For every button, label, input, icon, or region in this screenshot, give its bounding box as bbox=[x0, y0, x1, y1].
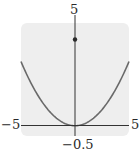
y-max-label: 5 bbox=[70, 3, 78, 16]
marked-point bbox=[73, 37, 77, 41]
x-max-label: 5 bbox=[131, 118, 139, 131]
x-min-label: −5 bbox=[1, 118, 20, 131]
y-min-label: −0.5 bbox=[62, 138, 94, 151]
